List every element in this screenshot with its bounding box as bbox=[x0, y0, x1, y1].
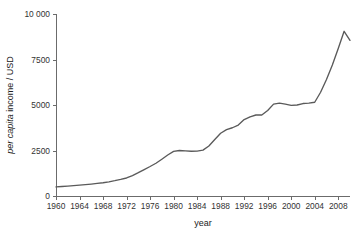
x-tick-label: 1988 bbox=[211, 201, 230, 211]
x-tick-label: 1968 bbox=[94, 201, 113, 211]
y-axis-title: per capita income / USD bbox=[5, 56, 15, 155]
x-tick-label: 2008 bbox=[329, 201, 348, 211]
y-tick-label: 10 000 bbox=[24, 9, 50, 19]
y-axis-title-roman-part: income / USD bbox=[5, 56, 15, 115]
x-tick-label: 2000 bbox=[282, 201, 301, 211]
x-tick-label: 1972 bbox=[117, 201, 136, 211]
x-axis-title: year bbox=[194, 218, 212, 228]
data-line-per-capita-income bbox=[56, 31, 350, 187]
y-tick-label: 7500 bbox=[31, 55, 50, 65]
x-tick-label: 1960 bbox=[47, 201, 66, 211]
x-tick-label: 1976 bbox=[141, 201, 160, 211]
chart-figure: 10 0007500500025000 per capita income / … bbox=[0, 0, 361, 230]
data-series-group bbox=[56, 31, 350, 187]
y-axis-title-italic-part: per capita bbox=[5, 114, 15, 155]
y-tick-label: 5000 bbox=[31, 100, 50, 110]
y-axis-tick-marks bbox=[53, 15, 57, 197]
x-tick-label: 1964 bbox=[70, 201, 89, 211]
x-tick-label: 1996 bbox=[258, 201, 277, 211]
y-tick-label: 0 bbox=[45, 191, 50, 201]
y-axis-group: 10 0007500500025000 per capita income / … bbox=[5, 9, 57, 201]
x-tick-label: 1984 bbox=[188, 201, 207, 211]
x-tick-label: 1980 bbox=[164, 201, 183, 211]
x-tick-label: 2004 bbox=[305, 201, 324, 211]
x-tick-label: 1992 bbox=[235, 201, 254, 211]
y-tick-label: 2500 bbox=[31, 146, 50, 156]
line-chart-canvas: 10 0007500500025000 per capita income / … bbox=[0, 0, 361, 230]
x-axis-tick-labels: 1960196419681972197619801984198819921996… bbox=[47, 201, 348, 211]
y-axis-tick-labels: 10 0007500500025000 bbox=[24, 9, 50, 201]
x-axis-group: 1960196419681972197619801984198819921996… bbox=[47, 196, 350, 228]
